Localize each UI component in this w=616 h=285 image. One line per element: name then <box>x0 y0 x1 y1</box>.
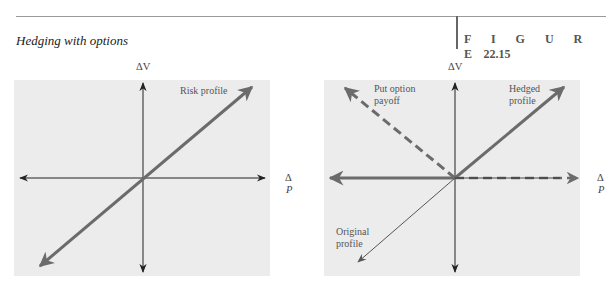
figure-graphics: Risk profile ΔV Δ P Put option payoff He… <box>0 0 616 285</box>
left-y-axis-label: ΔV <box>136 61 151 72</box>
right-y-axis-label: ΔV <box>448 61 463 72</box>
original-label-1: Original <box>336 226 370 237</box>
hedged-label-1: Hedged <box>509 83 540 94</box>
left-x-axis-label-p: P <box>285 184 293 195</box>
right-x-axis-label-p: P <box>597 184 605 195</box>
hedged-label-2: profile <box>509 95 536 106</box>
left-panel: Risk profile ΔV Δ P <box>14 61 293 276</box>
put-label-2: payoff <box>374 95 401 106</box>
right-x-axis-label-delta: Δ <box>597 172 604 183</box>
put-label-1: Put option <box>374 83 415 94</box>
right-panel: Put option payoff Hedged profile Origina… <box>324 61 605 276</box>
left-x-axis-label-delta: Δ <box>285 172 292 183</box>
original-label-2: profile <box>336 238 363 249</box>
risk-profile-label: Risk profile <box>180 85 228 96</box>
